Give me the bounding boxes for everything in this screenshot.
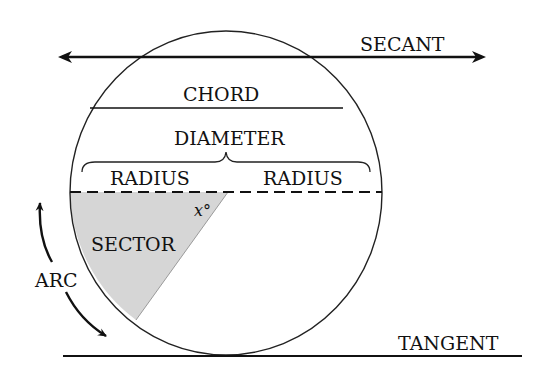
circle-parts-diagram: SECANT CHORD DIAMETER RADIUS RADIUS SECT… xyxy=(0,0,546,382)
arc-arrow-down xyxy=(66,292,106,336)
chord-label: CHORD xyxy=(183,83,259,105)
arc-arrow-up xyxy=(40,203,52,262)
radius-right-label: RADIUS xyxy=(263,167,343,189)
angle-label: x° xyxy=(194,201,211,220)
secant-label: SECANT xyxy=(360,33,445,55)
radius-left-label: RADIUS xyxy=(110,167,190,189)
sector-label: SECTOR xyxy=(91,233,176,255)
tangent-label: TANGENT xyxy=(398,332,499,354)
diameter-label: DIAMETER xyxy=(174,127,285,149)
arc-label: ARC xyxy=(34,269,78,291)
